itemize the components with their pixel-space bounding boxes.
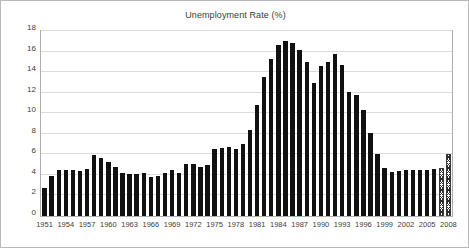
bar	[134, 174, 138, 216]
bar	[106, 162, 110, 216]
y-tick-label: 14	[3, 65, 36, 73]
bar	[375, 154, 379, 216]
x-tick-label: 1996	[355, 220, 372, 230]
bar	[446, 154, 450, 216]
bar	[319, 66, 323, 216]
bar-series	[41, 31, 452, 216]
x-tick-label: 1960	[100, 220, 117, 230]
x-tick-label: 1972	[185, 220, 202, 230]
x-tick-label: 1978	[228, 220, 245, 230]
x-tick-label: 1951	[36, 220, 53, 230]
bar	[156, 176, 160, 216]
bar	[170, 170, 174, 216]
bar	[163, 173, 167, 216]
bar	[248, 130, 252, 216]
x-tick-label: 1954	[57, 220, 74, 230]
x-tick-label: 2008	[440, 220, 457, 230]
y-tick-label: 6	[3, 147, 36, 155]
bar	[234, 149, 238, 216]
bar	[312, 83, 316, 216]
bar	[78, 171, 82, 216]
bar	[283, 41, 287, 216]
y-tick-label: 0	[3, 209, 36, 217]
x-tick-label: 1975	[206, 220, 223, 230]
bar	[99, 158, 103, 216]
bar	[347, 92, 351, 216]
bar	[42, 188, 46, 216]
bar	[120, 173, 124, 216]
bar	[439, 168, 443, 216]
bar	[404, 170, 408, 216]
x-tick-label: 1999	[376, 220, 393, 230]
bar	[205, 165, 209, 216]
bar	[142, 173, 146, 216]
bar	[390, 172, 394, 216]
x-tick-label: 2005	[419, 220, 436, 230]
x-tick-label: 1993	[334, 220, 351, 230]
bar	[340, 65, 344, 216]
y-tick-label: 4	[3, 168, 36, 176]
x-tick-label: 1987	[291, 220, 308, 230]
bar	[57, 170, 61, 216]
x-tick-label: 1984	[270, 220, 287, 230]
bar	[361, 110, 365, 216]
y-tick-label: 8	[3, 127, 36, 135]
y-tick-label: 18	[3, 24, 36, 32]
chart-screenshot: Unemployment Rate (%) 024681012141618 19…	[0, 0, 469, 248]
bar	[127, 174, 131, 216]
bar	[368, 133, 372, 216]
bar	[85, 169, 89, 216]
bar	[255, 105, 259, 216]
bar	[177, 173, 181, 216]
bar	[191, 164, 195, 216]
y-axis: 024681012141618	[1, 30, 36, 217]
bar	[149, 177, 153, 216]
bar	[212, 149, 216, 216]
bar	[71, 170, 75, 216]
bar	[198, 167, 202, 216]
bar	[397, 171, 401, 216]
bar	[333, 54, 337, 216]
bar	[382, 168, 386, 216]
bar	[290, 43, 294, 216]
bar	[418, 170, 422, 216]
x-tick-label: 1990	[313, 220, 330, 230]
bar	[425, 170, 429, 216]
bar	[432, 169, 436, 216]
bar	[305, 62, 309, 216]
y-tick-label: 10	[3, 106, 36, 114]
x-tick-label: 1966	[142, 220, 159, 230]
bar	[297, 50, 301, 217]
bar	[354, 95, 358, 216]
bar	[113, 167, 117, 216]
chart-title: Unemployment Rate (%)	[1, 10, 469, 20]
bar	[64, 170, 68, 216]
bar	[227, 147, 231, 216]
x-tick-label: 2002	[398, 220, 415, 230]
y-tick-label: 12	[3, 86, 36, 94]
y-tick-label: 2	[3, 188, 36, 196]
bar	[326, 62, 330, 216]
x-tick-label: 1963	[121, 220, 138, 230]
x-tick-label: 1981	[249, 220, 266, 230]
bar	[220, 148, 224, 216]
bar	[49, 176, 53, 216]
x-axis: 1951195419571960196319661969197219751978…	[41, 220, 452, 234]
bar	[184, 164, 188, 216]
bar	[276, 45, 280, 216]
bar	[269, 59, 273, 216]
x-tick-label: 1957	[79, 220, 96, 230]
bar	[92, 155, 96, 216]
y-tick-label: 16	[3, 45, 36, 53]
bar	[262, 77, 266, 216]
bar	[241, 144, 245, 216]
x-tick-label: 1969	[164, 220, 181, 230]
bar	[411, 170, 415, 216]
